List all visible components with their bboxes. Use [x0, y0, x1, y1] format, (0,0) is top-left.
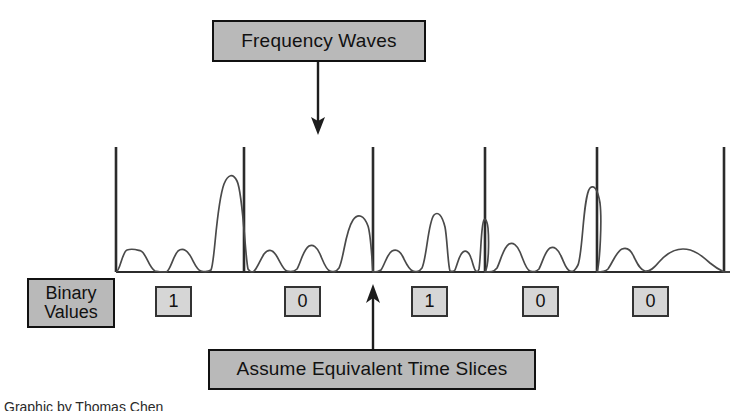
- bit-value-box-1: 1: [155, 286, 192, 317]
- binary-values-label-box: Binary Values: [27, 278, 115, 328]
- bit-value-box-3: 1: [411, 286, 448, 317]
- bit-value-3: 1: [424, 291, 434, 312]
- bit-value-box-5: 0: [632, 286, 669, 317]
- bit-value-2: 0: [297, 291, 307, 312]
- bit-value-box-4: 0: [522, 286, 559, 317]
- bit-value-box-2: 0: [284, 286, 321, 317]
- frequency-waveform-path: [116, 176, 730, 272]
- bit-value-5: 0: [645, 291, 655, 312]
- down-arrow-frequency-waves: [311, 62, 325, 135]
- up-arrow-time-slices: [366, 284, 380, 349]
- binary-values-line-2: Values: [44, 303, 98, 322]
- diagram-canvas: Frequency Waves Binary Values 1 0 1 0 0 …: [0, 0, 744, 411]
- frequency-waves-label: Frequency Waves: [241, 31, 396, 52]
- bit-value-4: 0: [535, 291, 545, 312]
- binary-values-line-1: Binary: [45, 284, 96, 303]
- frequency-waves-label-box: Frequency Waves: [212, 20, 426, 62]
- page-caption-cropped: Graphic by Thomas Chen: [4, 399, 424, 411]
- bit-value-1: 1: [168, 291, 178, 312]
- assume-time-slices-label-box: Assume Equivalent Time Slices: [208, 349, 536, 390]
- assume-time-slices-label: Assume Equivalent Time Slices: [237, 359, 508, 380]
